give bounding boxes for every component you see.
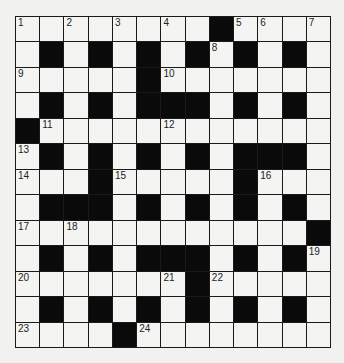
crossword-cell[interactable]: 18	[64, 221, 87, 245]
crossword-cell[interactable]	[16, 93, 39, 117]
crossword-cell[interactable]	[186, 323, 209, 347]
crossword-cell[interactable]	[89, 68, 112, 92]
crossword-cell[interactable]	[89, 119, 112, 143]
crossword-cell[interactable]: 21	[161, 272, 184, 296]
crossword-cell[interactable]: 6	[258, 17, 281, 41]
crossword-cell[interactable]	[186, 119, 209, 143]
crossword-cell[interactable]	[137, 221, 160, 245]
crossword-cell[interactable]: 22	[210, 272, 233, 296]
crossword-cell[interactable]	[258, 297, 281, 321]
crossword-cell[interactable]	[186, 170, 209, 194]
crossword-cell[interactable]	[258, 323, 281, 347]
crossword-cell[interactable]	[113, 297, 136, 321]
crossword-cell[interactable]	[307, 195, 330, 219]
crossword-cell[interactable]	[137, 272, 160, 296]
crossword-cell[interactable]	[89, 17, 112, 41]
crossword-cell[interactable]	[307, 144, 330, 168]
crossword-cell[interactable]	[113, 42, 136, 66]
crossword-cell[interactable]	[161, 42, 184, 66]
crossword-cell[interactable]	[307, 119, 330, 143]
crossword-cell[interactable]	[40, 272, 63, 296]
crossword-cell[interactable]	[258, 119, 281, 143]
crossword-cell[interactable]	[40, 68, 63, 92]
crossword-cell[interactable]: 2	[64, 17, 87, 41]
crossword-cell[interactable]: 19	[307, 246, 330, 270]
crossword-cell[interactable]	[283, 68, 306, 92]
crossword-cell[interactable]	[113, 195, 136, 219]
crossword-cell[interactable]	[40, 17, 63, 41]
crossword-cell[interactable]	[113, 246, 136, 270]
crossword-cell[interactable]	[186, 17, 209, 41]
crossword-cell[interactable]	[16, 246, 39, 270]
crossword-cell[interactable]	[16, 195, 39, 219]
crossword-cell[interactable]	[64, 272, 87, 296]
crossword-cell[interactable]	[89, 272, 112, 296]
crossword-cell[interactable]: 15	[113, 170, 136, 194]
crossword-cell[interactable]	[283, 272, 306, 296]
crossword-cell[interactable]	[210, 323, 233, 347]
crossword-cell[interactable]	[64, 323, 87, 347]
crossword-cell[interactable]	[186, 68, 209, 92]
crossword-cell[interactable]	[113, 119, 136, 143]
crossword-cell[interactable]	[40, 170, 63, 194]
crossword-cell[interactable]	[307, 68, 330, 92]
crossword-cell[interactable]	[137, 170, 160, 194]
crossword-cell[interactable]	[161, 195, 184, 219]
crossword-cell[interactable]: 7	[307, 17, 330, 41]
crossword-cell[interactable]	[307, 42, 330, 66]
crossword-cell[interactable]	[210, 297, 233, 321]
crossword-cell[interactable]	[258, 93, 281, 117]
crossword-cell[interactable]	[64, 297, 87, 321]
crossword-cell[interactable]: 12	[161, 119, 184, 143]
crossword-cell[interactable]	[161, 323, 184, 347]
crossword-cell[interactable]	[307, 272, 330, 296]
crossword-cell[interactable]	[113, 93, 136, 117]
crossword-cell[interactable]	[283, 170, 306, 194]
crossword-cell[interactable]	[234, 323, 257, 347]
crossword-cell[interactable]: 11	[40, 119, 63, 143]
crossword-cell[interactable]	[234, 119, 257, 143]
crossword-cell[interactable]	[307, 93, 330, 117]
crossword-cell[interactable]: 16	[258, 170, 281, 194]
crossword-cell[interactable]	[210, 221, 233, 245]
crossword-cell[interactable]	[89, 221, 112, 245]
crossword-cell[interactable]	[234, 68, 257, 92]
crossword-cell[interactable]	[64, 246, 87, 270]
crossword-cell[interactable]	[137, 119, 160, 143]
crossword-cell[interactable]: 9	[16, 68, 39, 92]
crossword-cell[interactable]: 10	[161, 68, 184, 92]
crossword-cell[interactable]	[210, 144, 233, 168]
crossword-cell[interactable]	[64, 42, 87, 66]
crossword-cell[interactable]	[137, 17, 160, 41]
crossword-cell[interactable]	[186, 221, 209, 245]
crossword-cell[interactable]	[258, 42, 281, 66]
crossword-cell[interactable]: 24	[137, 323, 160, 347]
crossword-cell[interactable]	[210, 170, 233, 194]
crossword-cell[interactable]	[161, 144, 184, 168]
crossword-cell[interactable]	[161, 297, 184, 321]
crossword-cell[interactable]	[16, 297, 39, 321]
crossword-cell[interactable]	[113, 221, 136, 245]
crossword-cell[interactable]: 20	[16, 272, 39, 296]
crossword-cell[interactable]	[283, 17, 306, 41]
crossword-cell[interactable]	[283, 221, 306, 245]
crossword-cell[interactable]	[113, 68, 136, 92]
crossword-cell[interactable]	[64, 119, 87, 143]
crossword-cell[interactable]	[161, 221, 184, 245]
crossword-cell[interactable]	[307, 170, 330, 194]
crossword-cell[interactable]	[64, 93, 87, 117]
crossword-cell[interactable]: 5	[234, 17, 257, 41]
crossword-cell[interactable]	[210, 68, 233, 92]
crossword-cell[interactable]: 23	[16, 323, 39, 347]
crossword-cell[interactable]	[64, 144, 87, 168]
crossword-cell[interactable]	[210, 93, 233, 117]
crossword-cell[interactable]	[258, 68, 281, 92]
crossword-cell[interactable]: 1	[16, 17, 39, 41]
crossword-cell[interactable]	[113, 144, 136, 168]
crossword-cell[interactable]	[283, 323, 306, 347]
crossword-cell[interactable]	[258, 195, 281, 219]
crossword-cell[interactable]	[64, 68, 87, 92]
crossword-cell[interactable]	[161, 170, 184, 194]
crossword-cell[interactable]	[258, 221, 281, 245]
crossword-cell[interactable]	[113, 272, 136, 296]
